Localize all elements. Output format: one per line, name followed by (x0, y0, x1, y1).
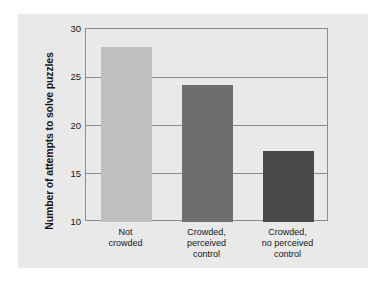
y-tick-label: 30 (59, 23, 81, 34)
plot-area (85, 28, 328, 221)
y-tick-label: 15 (59, 167, 81, 178)
y-tick-label: 25 (59, 71, 81, 82)
y-axis-title: Number of attempts to solve puzzles (40, 14, 58, 268)
chart-figure-panel: Number of attempts to solve puzzles 1015… (18, 14, 368, 268)
y-tick-label: 20 (59, 119, 81, 130)
bar (263, 151, 314, 222)
x-category-label: Crowded, no perceived control (247, 227, 328, 260)
x-category-label: Crowded, perceived control (166, 227, 247, 260)
bar (182, 85, 233, 222)
bar (101, 47, 152, 222)
y-tick-label: 10 (59, 216, 81, 227)
x-category-label: Not crowded (85, 227, 166, 249)
